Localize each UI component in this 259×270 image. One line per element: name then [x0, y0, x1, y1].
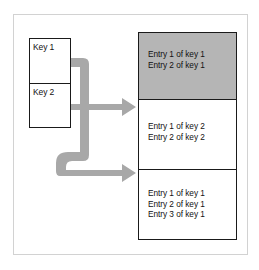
entry-line: Entry 3 of key 1 — [148, 209, 236, 220]
entry-block-1-lines: Entry 1 of key 1 Entry 2 of key 1 — [148, 49, 236, 70]
entry-block-2-lines: Entry 1 of key 2 Entry 2 of key 2 — [148, 121, 236, 142]
key-cell-1-label: Key 1 — [33, 42, 54, 52]
entry-line: Entry 2 of key 1 — [148, 199, 236, 210]
entry-line: Entry 1 of key 1 — [148, 49, 236, 60]
key-cell-1[interactable]: Key 1 — [30, 39, 70, 83]
entry-line: Entry 1 of key 2 — [148, 121, 236, 132]
entry-block-2[interactable]: Entry 1 of key 2 Entry 2 of key 2 — [139, 100, 236, 170]
entry-line: Entry 2 of key 2 — [148, 132, 236, 143]
entries-table: Entry 1 of key 1 Entry 2 of key 1 Entry … — [138, 32, 237, 240]
key-cell-2[interactable]: Key 2 — [30, 83, 70, 127]
diagram-canvas: Key 1 Key 2 Entry 1 of key 1 Entry 2 of … — [0, 0, 259, 270]
entry-line: Entry 1 of key 1 — [148, 188, 236, 199]
key-cell-2-label: Key 2 — [33, 87, 54, 97]
entry-block-3-lines: Entry 1 of key 1 Entry 2 of key 1 Entry … — [148, 188, 236, 220]
entry-block-1[interactable]: Entry 1 of key 1 Entry 2 of key 1 — [139, 33, 236, 100]
entry-block-3[interactable]: Entry 1 of key 1 Entry 2 of key 1 Entry … — [139, 170, 236, 238]
entry-line: Entry 2 of key 1 — [148, 60, 236, 71]
key-table: Key 1 Key 2 — [29, 38, 71, 128]
